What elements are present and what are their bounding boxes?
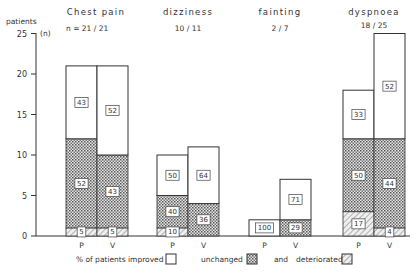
- y-tick-label: 10: [17, 151, 27, 160]
- bar-v: 54352V: [97, 66, 128, 250]
- y-tick-label: 0: [22, 232, 27, 241]
- legend-and-label: and: [274, 255, 288, 264]
- group-n-label: 18 / 25: [361, 21, 388, 30]
- bar-x-label: P: [262, 241, 267, 250]
- pct-deteriorated: 4: [387, 228, 392, 236]
- pct-deteriorated: 5: [79, 228, 83, 236]
- y-axis-label: patients: [6, 17, 37, 26]
- group-chest-pain: Chest painn = 21 / 2155243P54352V: [66, 7, 128, 250]
- legend-prefix: % of patients: [76, 255, 126, 264]
- group-title: Chest pain: [67, 7, 125, 17]
- bar-p: 104050P: [157, 155, 188, 250]
- pct-unchanged: 52: [77, 180, 86, 188]
- bar-v: 2971V: [280, 179, 311, 250]
- pct-improved: 71: [291, 196, 300, 204]
- pct-improved: 64: [199, 172, 208, 180]
- group-n-label: 2 / 7: [272, 24, 289, 33]
- pct-unchanged: 43: [108, 188, 117, 196]
- legend-improved-label: improved: [128, 255, 164, 264]
- bar-p: 55243P: [66, 66, 97, 250]
- bar-x-label: V: [293, 241, 299, 250]
- y-tick-label: 5: [22, 192, 27, 201]
- group-title: dizziness: [163, 7, 213, 17]
- pct-unchanged: 29: [291, 224, 300, 232]
- bar-p: 100P: [249, 220, 280, 250]
- group-fainting: fainting2 / 7100P2971V: [249, 7, 311, 250]
- group-n-label: 10 / 11: [175, 24, 202, 33]
- pct-improved: 100: [258, 224, 271, 232]
- pct-improved: 33: [354, 111, 363, 119]
- pct-improved: 52: [385, 83, 394, 91]
- bar-v: 3664V: [188, 147, 219, 250]
- bar-v: 44452V: [374, 34, 405, 251]
- pct-improved: 50: [168, 172, 177, 180]
- group-dizziness: dizziness10 / 11104050P3664V: [157, 7, 219, 250]
- pct-unchanged: 44: [385, 180, 394, 188]
- group-n-label: n = 21 / 21: [66, 24, 108, 33]
- bar-x-label: P: [356, 241, 361, 250]
- y-axis-unit: (n): [40, 29, 51, 38]
- group-title: dyspnoea: [348, 7, 400, 17]
- group-title: fainting: [259, 7, 302, 17]
- pct-deteriorated: 10: [168, 228, 177, 236]
- pct-unchanged: 50: [354, 172, 363, 180]
- legend-unchanged-label: unchanged: [201, 255, 243, 264]
- bar-x-label: V: [201, 241, 207, 250]
- bar-x-label: P: [79, 241, 84, 250]
- bar-x-label: P: [170, 241, 175, 250]
- bar-x-label: V: [387, 241, 393, 250]
- pct-improved: 52: [108, 107, 117, 115]
- y-ticks: 0510152025: [17, 30, 36, 242]
- pct-unchanged: 40: [168, 208, 177, 216]
- y-tick-label: 15: [17, 111, 27, 120]
- group-dyspnoea: dyspnoea18 / 25175033P44452V: [343, 7, 405, 250]
- bar-p: 175033P: [343, 90, 374, 250]
- pct-deteriorated: 17: [354, 220, 363, 228]
- pct-unchanged: 36: [199, 216, 208, 224]
- y-tick-label: 20: [17, 70, 27, 79]
- legend-unchanged-swatch: [247, 254, 257, 264]
- pct-deteriorated: 5: [110, 228, 114, 236]
- legend: % of patients improved unchanged and det…: [76, 254, 352, 264]
- bar-groups: Chest painn = 21 / 2155243P54352Vdizzine…: [66, 7, 405, 250]
- stacked-bar-chart: patients (n) 0510152025 Chest painn = 21…: [0, 0, 419, 275]
- legend-deteriorated-swatch: [342, 254, 352, 264]
- legend-improved-swatch: [166, 254, 176, 264]
- bar-x-label: V: [110, 241, 116, 250]
- legend-deteriorated-label: deteriorated: [296, 255, 343, 264]
- pct-improved: 43: [77, 99, 86, 107]
- y-tick-label: 25: [17, 30, 27, 39]
